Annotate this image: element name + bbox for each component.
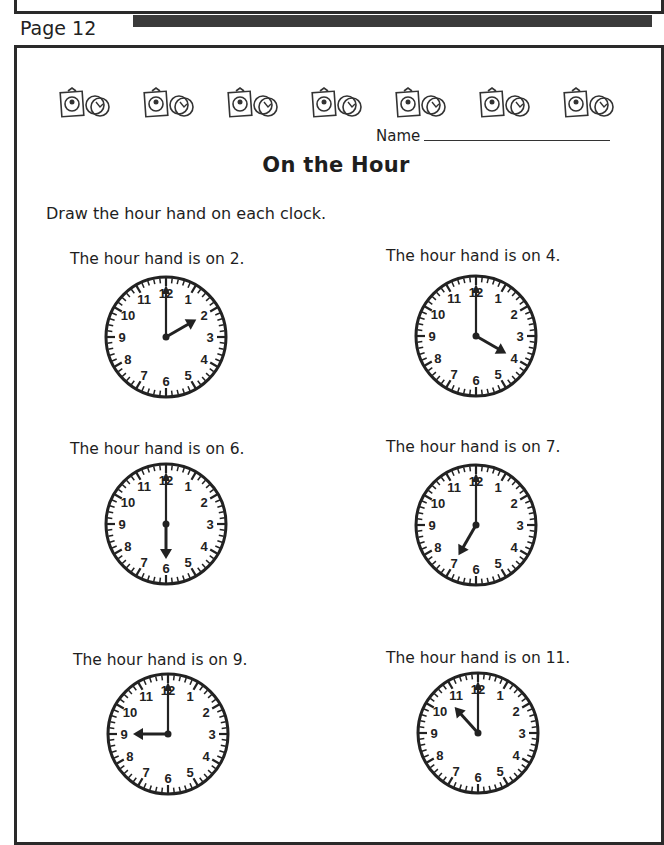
- svg-text:6: 6: [162, 561, 169, 576]
- svg-text:3: 3: [208, 727, 215, 742]
- svg-text:1: 1: [186, 689, 193, 704]
- svg-text:10: 10: [433, 704, 447, 719]
- name-label: Name: [376, 127, 420, 145]
- svg-text:7: 7: [142, 765, 149, 780]
- clock-gift-and-coins-icon: [562, 86, 618, 120]
- svg-text:10: 10: [123, 705, 137, 720]
- svg-text:6: 6: [162, 374, 169, 389]
- page-header-bar: [133, 15, 652, 27]
- name-field[interactable]: Name: [376, 127, 610, 145]
- exercise-caption: The hour hand is on 2.: [70, 250, 244, 268]
- svg-text:6: 6: [164, 771, 171, 786]
- svg-text:9: 9: [120, 727, 127, 742]
- svg-text:4: 4: [200, 539, 208, 554]
- clock-gift-and-coins-icon: [58, 86, 114, 120]
- svg-text:8: 8: [124, 539, 131, 554]
- decoration-row: [58, 86, 618, 120]
- svg-text:9: 9: [430, 726, 437, 741]
- svg-text:8: 8: [434, 351, 441, 366]
- svg-text:1: 1: [184, 292, 191, 307]
- svg-text:10: 10: [431, 307, 445, 322]
- svg-text:6: 6: [472, 373, 479, 388]
- clock-gift-and-coins-icon: [394, 86, 450, 120]
- svg-text:3: 3: [518, 726, 525, 741]
- svg-text:4: 4: [200, 352, 208, 367]
- svg-text:1: 1: [494, 480, 501, 495]
- svg-text:9: 9: [428, 518, 435, 533]
- name-blank-line[interactable]: [424, 140, 610, 141]
- svg-text:7: 7: [140, 368, 147, 383]
- svg-text:2: 2: [510, 307, 517, 322]
- svg-text:4: 4: [510, 351, 518, 366]
- svg-text:7: 7: [450, 556, 457, 571]
- svg-text:11: 11: [447, 480, 461, 495]
- svg-text:11: 11: [447, 291, 461, 306]
- svg-text:9: 9: [428, 329, 435, 344]
- svg-text:9: 9: [118, 330, 125, 345]
- svg-text:8: 8: [124, 352, 131, 367]
- exercise-caption: The hour hand is on 11.: [386, 649, 570, 667]
- svg-text:1: 1: [184, 479, 191, 494]
- svg-text:5: 5: [494, 367, 501, 382]
- svg-text:2: 2: [200, 308, 207, 323]
- instructions: Draw the hour hand on each clock.: [46, 204, 326, 223]
- svg-text:2: 2: [512, 704, 519, 719]
- svg-text:3: 3: [206, 517, 213, 532]
- svg-text:5: 5: [184, 555, 191, 570]
- clock-face[interactable]: 121234567891011: [412, 461, 540, 589]
- svg-text:4: 4: [510, 540, 518, 555]
- svg-text:6: 6: [474, 770, 481, 785]
- svg-text:1: 1: [496, 688, 503, 703]
- svg-text:11: 11: [137, 292, 151, 307]
- svg-text:10: 10: [121, 308, 135, 323]
- exercise-caption: The hour hand is on 6.: [70, 440, 244, 458]
- clock-gift-and-coins-icon: [310, 86, 366, 120]
- top-frame: [14, 0, 664, 14]
- svg-text:5: 5: [496, 764, 503, 779]
- svg-text:11: 11: [449, 688, 463, 703]
- exercise-caption: The hour hand is on 4.: [386, 247, 560, 265]
- svg-text:11: 11: [139, 689, 153, 704]
- svg-text:4: 4: [512, 748, 520, 763]
- clock-gift-and-coins-icon: [478, 86, 534, 120]
- clock-face[interactable]: 121234567891011: [102, 273, 230, 401]
- svg-text:8: 8: [436, 748, 443, 763]
- svg-text:8: 8: [434, 540, 441, 555]
- svg-text:11: 11: [137, 479, 151, 494]
- worksheet-title: On the Hour: [0, 153, 652, 177]
- svg-text:4: 4: [202, 749, 210, 764]
- svg-text:3: 3: [516, 518, 523, 533]
- svg-text:1: 1: [494, 291, 501, 306]
- svg-text:10: 10: [121, 495, 135, 510]
- svg-text:7: 7: [140, 555, 147, 570]
- clock-gift-and-coins-icon: [142, 86, 198, 120]
- clock-face[interactable]: 121234567891011: [104, 670, 232, 798]
- exercise-caption: The hour hand is on 9.: [73, 651, 247, 669]
- svg-text:10: 10: [431, 496, 445, 511]
- svg-text:5: 5: [186, 765, 193, 780]
- svg-text:2: 2: [200, 495, 207, 510]
- page-number: Page 12: [20, 17, 96, 39]
- svg-text:8: 8: [126, 749, 133, 764]
- svg-text:2: 2: [202, 705, 209, 720]
- svg-text:3: 3: [516, 329, 523, 344]
- clock-face[interactable]: 121234567891011: [412, 272, 540, 400]
- svg-text:6: 6: [472, 562, 479, 577]
- exercise-caption: The hour hand is on 7.: [386, 438, 560, 456]
- svg-text:5: 5: [184, 368, 191, 383]
- svg-text:5: 5: [494, 556, 501, 571]
- svg-text:7: 7: [452, 764, 459, 779]
- clock-face[interactable]: 121234567891011: [414, 669, 542, 797]
- svg-text:7: 7: [450, 367, 457, 382]
- svg-text:9: 9: [118, 517, 125, 532]
- clock-gift-and-coins-icon: [226, 86, 282, 120]
- svg-text:2: 2: [510, 496, 517, 511]
- svg-text:3: 3: [206, 330, 213, 345]
- clock-face[interactable]: 121234567891011: [102, 460, 230, 588]
